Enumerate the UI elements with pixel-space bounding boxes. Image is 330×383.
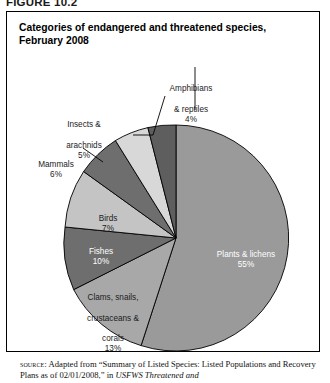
pie-label-birds-name: Birds (99, 214, 118, 223)
pie-label-plants-percent: 55% (195, 260, 297, 270)
source-note: SOURCE: Adapted from “Summary of Listed … (20, 359, 324, 382)
pie-label-amphibians-and-reptiles: Amphibians & reptiles 4% (147, 74, 235, 135)
pie-label-fishes-name: Fishes (89, 247, 113, 256)
pie-label-clams-percent: 13% (65, 344, 161, 352)
pie-label-clams-snails-crustaceans-corals: Clams, snails, crustaceans & corals 13% (65, 283, 161, 352)
pie-label-amphibians-line-2: & reptiles (174, 105, 208, 114)
pie-label-amphibians-percent: 4% (147, 115, 235, 125)
source-note-label: SOURCE: (20, 359, 47, 369)
pie-label-fishes: Fishes 10% (73, 237, 129, 278)
pie-label-clams-line-2: crustaceans & (87, 314, 139, 323)
pie-label-insects-line-1: Insects & (67, 120, 101, 129)
pie-label-clams-line-1: Clams, snails, (88, 293, 139, 302)
pie-label-fishes-percent: 10% (73, 257, 129, 267)
pie-label-amphibians-line-1: Amphibians (170, 84, 213, 93)
figure-frame: Categories of endangered and threatened … (6, 11, 320, 352)
pie-label-mammals: Mammals 6% (23, 150, 89, 191)
pie-label-mammals-percent: 6% (23, 170, 89, 180)
pie-label-clams-line-3: corals (102, 334, 124, 343)
pie-label-birds-percent: 7% (81, 224, 135, 234)
pie-label-plants-and-lichens: Plants & lichens 55% (195, 240, 297, 281)
source-note-italic-title: USFWS Threatened and (115, 370, 198, 380)
pie-label-mammals-name: Mammals (38, 160, 73, 169)
figure-number-label: FIGURE 10.2 (6, 0, 77, 8)
figure-page: FIGURE 10.2 Categories of endangered and… (0, 0, 330, 383)
pie-label-insects-line-2: arachnids (66, 141, 102, 150)
pie-label-plants-name: Plants & lichens (217, 250, 275, 259)
